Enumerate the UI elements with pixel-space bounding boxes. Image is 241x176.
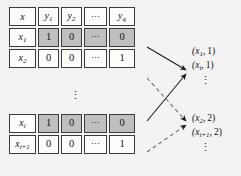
table-header-row: x y1 y2 ⋯ yq <box>9 7 135 26</box>
header-cell-y2: y2 <box>61 7 82 26</box>
horizontal-ellipsis-icon: ⋯ <box>91 53 101 63</box>
pair-x1-num: 1) <box>205 46 215 56</box>
pair-xi-class1: (xi,1) <box>192 60 218 74</box>
arrow-row-xi1-to-class-two <box>147 125 186 152</box>
arrow-row-xi-to-class-one <box>147 74 186 121</box>
row-xi-cell-1: 1 <box>38 114 59 133</box>
row-x2-cell-ellipsis: ⋯ <box>84 49 107 68</box>
pair-xi-num: 1) <box>204 60 214 70</box>
label-matrix-table-lower: xi 1 0 ⋯ 0 xi+1 0 0 ⋯ 1 <box>7 112 137 156</box>
horizontal-ellipsis-icon: ⋯ <box>91 32 101 42</box>
row-x2-id: x2 <box>9 49 36 68</box>
row-xi-cell-2: 0 <box>61 114 82 133</box>
row-x1-id-sub: 1 <box>23 35 27 43</box>
row-xi1-cell-2: 0 <box>61 135 82 154</box>
pair-xi1-sub: i+1 <box>199 131 209 139</box>
pair-x2-num: 2) <box>205 113 215 123</box>
row-xi-id: xi <box>9 114 36 133</box>
horizontal-ellipsis-icon: ⋯ <box>91 12 101 22</box>
row-xi1-cell-1: 0 <box>38 135 59 154</box>
output-pairs-class-two: (x2,2) (xi+1,2) ⋮ <box>192 113 222 153</box>
row-xi-id-sub: i <box>24 121 26 129</box>
row-x1-cell-1: 1 <box>38 28 59 47</box>
header-cell-ellipsis: ⋯ <box>84 7 107 26</box>
horizontal-ellipsis-icon: ⋯ <box>91 118 101 128</box>
row-x2-cell-q: 1 <box>109 49 135 68</box>
row-x1-cell-2: 0 <box>61 28 82 47</box>
pair-xi1-class2: (xi+1,2) <box>192 127 222 141</box>
row-x2-cell-1: 0 <box>38 49 59 68</box>
arrow-row-x2-to-class-two <box>147 78 186 121</box>
pair-x2-class2: (x2,2) <box>192 113 222 127</box>
pair-x1-class1: (x1,1) <box>192 46 218 60</box>
header-cell-yq: yq <box>109 7 135 26</box>
row-xi1-id-sub: i+1 <box>20 142 30 150</box>
horizontal-ellipsis-icon: ⋯ <box>91 139 101 149</box>
table-row: x2 0 0 ⋯ 1 <box>9 49 135 68</box>
pair-xi1-num: 2) <box>212 127 222 137</box>
row-xi-cell-ellipsis: ⋯ <box>84 114 107 133</box>
vertical-ellipsis-icon: ⋮ <box>192 74 218 86</box>
row-xi1-cell-q: 1 <box>109 135 135 154</box>
arrow-row-x1-to-class-one <box>147 47 186 70</box>
header-y2-sub: 2 <box>72 14 76 22</box>
header-cell-instance: x <box>9 7 36 26</box>
row-x2-id-sub: 2 <box>23 56 27 64</box>
header-y1-sub: 1 <box>49 14 53 22</box>
table-row: xi+1 0 0 ⋯ 1 <box>9 135 135 154</box>
table-row: xi 1 0 ⋯ 0 <box>9 114 135 133</box>
row-xi1-id: xi+1 <box>9 135 36 154</box>
row-x1-cell-ellipsis: ⋯ <box>84 28 107 47</box>
header-cell-y1: y1 <box>38 7 59 26</box>
row-xi-cell-q: 0 <box>109 114 135 133</box>
row-x1-cell-q: 0 <box>109 28 135 47</box>
header-yq-sub: q <box>122 14 126 22</box>
vertical-ellipsis-icon: ⋮ <box>192 141 218 153</box>
figure-root: x y1 y2 ⋯ yq x1 1 0 <box>0 0 241 176</box>
row-x2-cell-2: 0 <box>61 49 82 68</box>
row-x1-id: x1 <box>9 28 36 47</box>
table-row: x1 1 0 ⋯ 0 <box>9 28 135 47</box>
row-xi1-cell-ellipsis: ⋯ <box>84 135 107 154</box>
vertical-ellipsis-icon: ⋮ <box>68 90 82 101</box>
label-matrix-table: x y1 y2 ⋯ yq x1 1 0 <box>7 5 137 70</box>
header-instance-label: x <box>20 11 24 22</box>
output-pairs-class-one: (x1,1) (xi,1) ⋮ <box>192 46 218 86</box>
